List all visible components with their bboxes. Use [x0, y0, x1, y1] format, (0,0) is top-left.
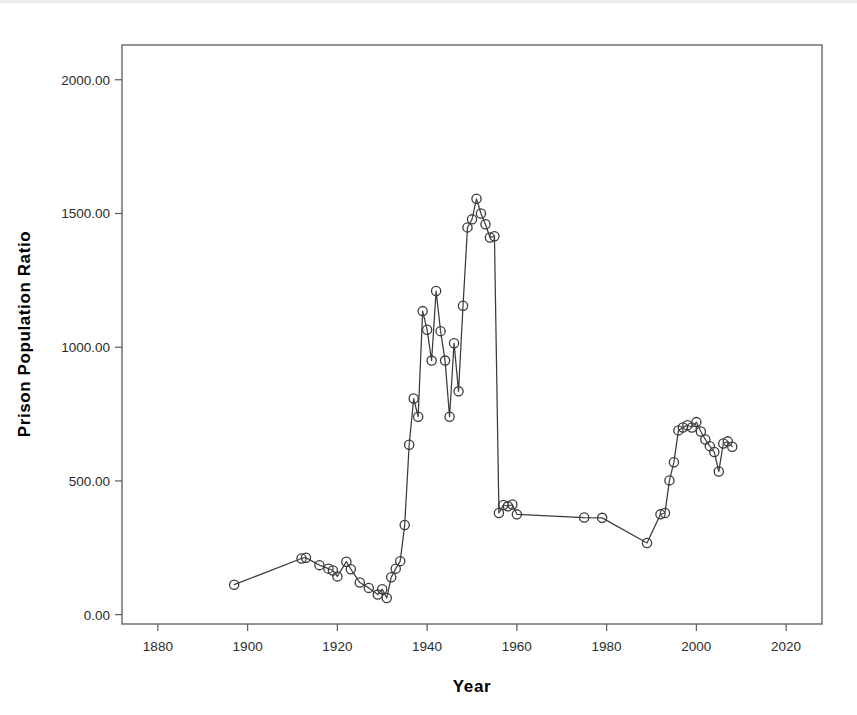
x-axis-title: Year	[453, 677, 491, 696]
x-tick-label: 2000	[681, 639, 711, 654]
data-point-marker	[387, 573, 396, 582]
data-point-marker	[414, 412, 423, 421]
data-point-marker	[467, 215, 476, 224]
data-point-marker	[669, 458, 678, 467]
data-point-marker	[378, 585, 387, 594]
data-point-marker	[660, 508, 669, 517]
chart-container: 0.00500.001000.001500.002000.00 18801900…	[0, 0, 857, 715]
data-point-marker	[409, 394, 418, 403]
data-point-marker	[458, 301, 467, 310]
data-point-marker	[481, 220, 490, 229]
plot-frame	[122, 45, 822, 624]
data-point-marker	[490, 232, 499, 241]
data-point-marker	[598, 513, 607, 522]
y-tick-label: 500.00	[69, 474, 110, 489]
data-point-marker	[315, 561, 324, 570]
data-point-marker	[301, 553, 310, 562]
x-tick-label: 1940	[412, 639, 442, 654]
data-point-marker	[512, 510, 521, 519]
data-point-marker	[710, 447, 719, 456]
data-point-marker	[432, 286, 441, 295]
data-point-marker	[642, 538, 651, 547]
data-point-marker	[436, 327, 445, 336]
data-point-marker	[692, 417, 701, 426]
x-tick-label: 1900	[233, 639, 263, 654]
data-point-marker	[427, 356, 436, 365]
data-point-marker	[405, 440, 414, 449]
data-point-marker	[396, 557, 405, 566]
data-point-marker	[440, 356, 449, 365]
data-point-marker	[445, 412, 454, 421]
y-tick-label: 1000.00	[61, 340, 110, 355]
data-point-marker	[454, 387, 463, 396]
x-tick-label: 1880	[143, 639, 173, 654]
data-point-marker	[382, 593, 391, 602]
line-chart: 0.00500.001000.001500.002000.00 18801900…	[0, 0, 857, 715]
data-point-marker	[364, 583, 373, 592]
data-point-marker	[665, 476, 674, 485]
data-point-marker	[508, 500, 517, 509]
data-point-marker	[346, 565, 355, 574]
y-tick-label: 0.00	[84, 608, 110, 623]
y-tick-label: 2000.00	[61, 73, 110, 88]
y-axis-title: Prison Population Ratio	[15, 231, 34, 437]
scan-artifact-band	[0, 0, 857, 3]
data-point-marker	[423, 325, 432, 334]
data-point-marker	[714, 467, 723, 476]
data-point-marker	[418, 307, 427, 316]
data-point-marker	[230, 580, 239, 589]
data-point-marker	[355, 578, 364, 587]
x-tick-label: 2020	[771, 639, 801, 654]
data-point-marker	[400, 520, 409, 529]
data-point-marker	[449, 339, 458, 348]
x-tick-label: 1920	[322, 639, 352, 654]
data-point-marker	[333, 572, 342, 581]
x-tick-label: 1960	[502, 639, 532, 654]
x-tick-label: 1980	[592, 639, 622, 654]
data-point-marker	[580, 513, 589, 522]
data-point-marker	[728, 442, 737, 451]
data-point-marker	[476, 209, 485, 218]
data-point-marker	[472, 194, 481, 203]
y-tick-label: 1500.00	[61, 206, 110, 221]
